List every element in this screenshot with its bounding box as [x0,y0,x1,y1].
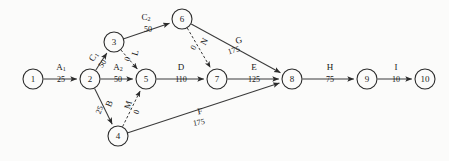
node-8[interactable]: 8 [282,69,302,89]
node-label-8: 8 [290,74,295,84]
node-7[interactable]: 7 [207,69,227,89]
network-diagram-svg: 12345678910 A125A250C150C250L0B25M0D110N… [0,0,449,161]
edge-name-F: F [196,106,203,117]
edge-label-A2: A250 [113,62,123,84]
edge-duration-H: 75 [326,75,334,84]
edge-label-E: E125 [248,62,260,84]
edge-label-I: I10 [392,62,400,84]
edge-name-A2: A2 [113,62,123,73]
node-10[interactable]: 10 [415,69,435,89]
edge-duration-I: 10 [392,75,400,84]
edge-label-M: M0 [122,99,141,115]
edge-label-layer: A125A250C150C250L0B25M0D110N0G175E125F17… [56,12,400,128]
edge-name-A1: A1 [56,62,66,73]
edge-duration-D: 110 [175,75,187,84]
edge-name-H: H [327,62,334,72]
edge-duration-C2: 50 [144,25,152,34]
node-9[interactable]: 9 [357,69,377,89]
edge-duration-C1: 50 [96,58,108,70]
node-label-10: 10 [421,74,431,84]
edge-name-L: L [130,49,141,57]
edge-label-C2: C250 [141,12,152,34]
node-label-7: 7 [215,74,220,84]
edge-name-I: I [395,62,398,72]
edge-name-C2: C2 [141,12,150,23]
edge-duration-L: 0 [122,56,132,62]
node-label-1: 1 [31,74,36,84]
edge-label-F: F175 [192,106,205,128]
network-diagram-canvas: 12345678910 A125A250C150C250L0B25M0D110N… [0,0,449,161]
node-label-9: 9 [365,74,370,84]
node-label-2: 2 [88,74,93,84]
node-3[interactable]: 3 [104,32,124,52]
edge-name-N: N [198,36,210,47]
node-label-3: 3 [112,37,117,47]
node-1[interactable]: 1 [23,69,43,89]
edge-duration-A1: 25 [57,75,65,84]
edge-name-M: M [122,99,134,110]
edge-label-H: H75 [326,62,334,84]
edge-duration-G: 175 [227,44,241,56]
edge-name-D: D [178,62,185,72]
edge-duration-M: 0 [131,109,141,115]
node-4[interactable]: 4 [108,126,128,146]
edge-label-D: D110 [175,62,187,84]
node-6[interactable]: 6 [172,9,192,29]
node-layer: 12345678910 [23,9,435,146]
node-5[interactable]: 5 [136,69,156,89]
edge-name-B: B [103,99,115,108]
edge-name-E: E [251,62,257,72]
node-label-4: 4 [116,131,121,141]
node-label-5: 5 [144,74,149,84]
edge-duration-E: 125 [248,75,260,84]
node-2[interactable]: 2 [80,69,100,89]
node-label-6: 6 [180,14,185,24]
edge-label-A1: A125 [56,62,66,84]
edge-duration-F: 175 [192,117,205,128]
edge-duration-A2: 50 [114,75,122,84]
